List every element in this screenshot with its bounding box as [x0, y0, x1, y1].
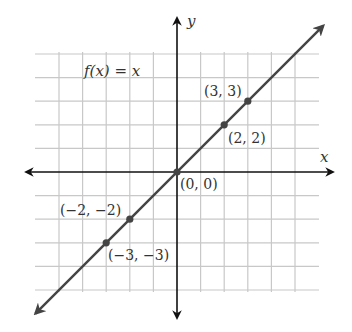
point-marker — [103, 239, 110, 246]
point-label-neg2-neg2: (−2, −2) — [60, 202, 121, 218]
point-marker — [126, 216, 133, 223]
point-marker — [221, 121, 228, 128]
point-marker — [244, 98, 251, 105]
x-axis-label: x — [320, 148, 329, 166]
point-label-2-2: (2, 2) — [228, 130, 266, 146]
point-label-0-0: (0, 0) — [180, 176, 218, 192]
graph-canvas: x y f(x) = x (3, 3) (2, 2) (0, 0) (−2, −… — [0, 0, 352, 332]
y-axis-label: y — [186, 12, 196, 30]
point-marker — [173, 168, 180, 175]
point-label-3-3: (3, 3) — [204, 83, 242, 99]
function-label: f(x) = x — [83, 62, 141, 80]
point-label-neg3-neg3: (−3, −3) — [108, 247, 169, 263]
